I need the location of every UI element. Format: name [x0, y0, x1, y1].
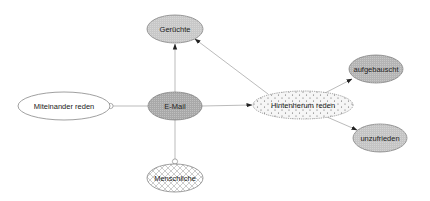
node-label: E-Mail [164, 102, 186, 111]
node-aufgebauscht[interactable]: aufgebauscht [349, 55, 403, 83]
node-unzufrieden[interactable]: unzufrieden [353, 124, 407, 152]
connector-circle-menschliche [172, 159, 177, 164]
node-label: unzufrieden [360, 134, 399, 143]
node-geruechte[interactable]: Gerüchte [147, 15, 203, 43]
node-label: aufgebauscht [353, 65, 399, 74]
node-label: Miteinander reden [34, 102, 94, 111]
node-label: Menschliche [154, 174, 196, 183]
edge-hintenherum-to-unzufrieden [327, 117, 357, 130]
node-miteinander-reden[interactable]: Miteinander reden [18, 92, 110, 120]
node-hintenherum-reden[interactable]: Hintenherum reden [253, 91, 353, 119]
node-label: Hintenherum reden [271, 101, 335, 110]
node-menschliche[interactable]: Menschliche [147, 164, 203, 192]
edge-hintenherum-to-geruechte [195, 39, 268, 94]
edge-email-to-hintenherum [202, 105, 252, 106]
node-email[interactable]: E-Mail [148, 92, 202, 120]
edge-hintenherum-to-aufgebauscht [325, 79, 352, 93]
node-label: Gerüchte [160, 25, 191, 34]
diagram-canvas: Gerüchte Miteinander reden E-Mail Hinten… [0, 0, 430, 201]
